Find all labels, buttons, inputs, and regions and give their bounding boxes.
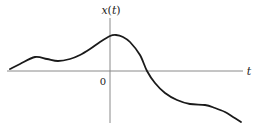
signal-plot: x(t) t 0 (0, 0, 255, 138)
y-axis-label: x(t) (101, 4, 120, 17)
x-axis-label: t (247, 65, 252, 78)
signal-curve (10, 35, 241, 122)
origin-label: 0 (100, 76, 106, 87)
